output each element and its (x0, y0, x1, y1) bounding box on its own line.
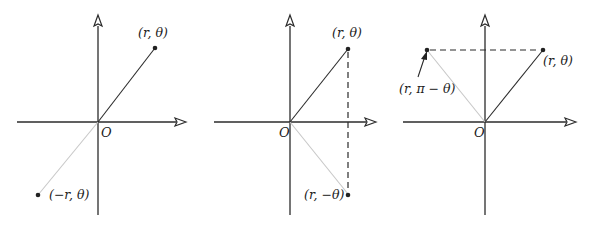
ray-r-neg-theta (290, 122, 348, 194)
point-r-neg-theta (346, 193, 351, 198)
panel-supplementary-angle: (r, θ) (r, π − θ) O (399, 15, 576, 215)
label-r-theta: (r, θ) (332, 25, 362, 40)
label-r-theta: (r, θ) (543, 53, 573, 68)
origin-label: O (474, 125, 485, 140)
point-neg-r-theta (36, 193, 41, 198)
origin-label: O (101, 125, 112, 140)
label-r-pi-minus-theta: (r, π − θ) (399, 81, 456, 96)
y-axis-arrow-icon (94, 15, 102, 26)
ray-r-theta (485, 50, 543, 122)
label-r-neg-theta: (r, −θ) (304, 187, 344, 202)
panel-negative-radius: (r, θ) (−r, θ) O (17, 15, 186, 215)
x-axis-arrow-icon (175, 118, 186, 126)
ray-r-theta (98, 48, 155, 122)
origin-label: O (279, 125, 290, 140)
y-axis-arrow-icon (286, 15, 294, 26)
point-r-theta (153, 46, 158, 51)
point-r-theta (541, 48, 546, 53)
label-r-theta: (r, θ) (138, 25, 168, 40)
label-neg-r-theta: (−r, θ) (49, 187, 89, 202)
point-r-theta (346, 47, 351, 52)
panel-negative-angle: (r, θ) (r, −θ) O (214, 15, 376, 215)
polar-symmetry-figure: (r, θ) (−r, θ) O (r, θ) (r, −θ) O (r, θ) (0, 0, 592, 228)
x-axis-arrow-icon (565, 118, 576, 126)
ray-neg-r-theta (38, 122, 98, 195)
x-axis-arrow-icon (365, 118, 376, 126)
pointer-arrow-icon (421, 51, 427, 60)
y-axis-arrow-icon (481, 15, 489, 26)
ray-r-theta (290, 49, 348, 122)
